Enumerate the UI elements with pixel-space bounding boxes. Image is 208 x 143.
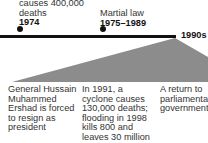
timeline-dot-1975	[100, 26, 106, 32]
period-label-1990s: 1990s	[181, 31, 207, 41]
timeline-dot-1974	[17, 26, 23, 32]
event-martial-law-text: Martial law 1975–1989	[100, 9, 146, 28]
timeline-line	[0, 35, 176, 38]
detail-cyclone-flooding: In 1991, a cyclone causes 130,000 deaths…	[82, 85, 168, 143]
event-martial-law-years: 1975–1989	[100, 19, 146, 29]
detail-parliamentary-return: A return to parliamentary government	[160, 85, 208, 114]
event-1974-year: 1974	[19, 18, 84, 28]
event-1974-text: causes 400,000 deaths 1974	[19, 0, 84, 28]
detail-line: government	[160, 104, 208, 114]
